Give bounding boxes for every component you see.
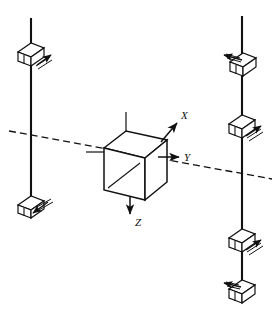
cube-front-face	[104, 148, 145, 200]
slider-left-lower	[18, 196, 53, 218]
x-axis: X	[161, 109, 189, 142]
slider-right-upper	[224, 53, 256, 76]
slider-right-middle	[229, 115, 263, 141]
diagram-canvas: X Y Z	[0, 0, 278, 320]
y-axis-label: Y	[184, 151, 192, 163]
slider-left-upper	[18, 43, 52, 69]
central-cube-body	[104, 131, 167, 200]
slider-right-lower	[229, 229, 263, 255]
slider-left-upper-hatch-2	[38, 60, 52, 69]
x-axis-label: X	[180, 109, 189, 121]
z-axis-label: Z	[135, 216, 142, 228]
z-axis: Z	[130, 196, 142, 228]
slider-right-bottom	[224, 280, 255, 303]
technical-diagram-figure: X Y Z	[0, 0, 278, 320]
x-axis-arrow	[161, 123, 177, 142]
